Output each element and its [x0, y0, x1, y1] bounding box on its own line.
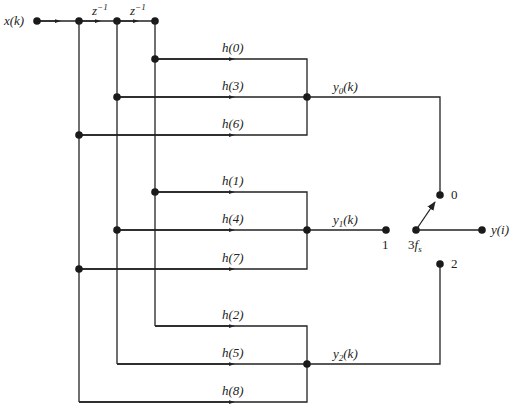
- switch-rate-label: 3fs: [408, 237, 422, 254]
- commutator-switch: 0 1 2 3fs y(i): [382, 187, 509, 271]
- coef-h1: h(1): [222, 173, 244, 188]
- coef-h2: h(2): [222, 307, 244, 322]
- branch-2: h(2) h(5) h(8) y2(k): [79, 264, 440, 402]
- delay-label-2: z−1: [129, 2, 146, 18]
- output-y1: y1(k): [331, 212, 358, 229]
- coef-h0: h(0): [222, 40, 244, 55]
- delay-label-1: z−1: [91, 2, 108, 18]
- coef-h4: h(4): [222, 211, 244, 226]
- coef-h6: h(6): [222, 116, 244, 131]
- input-node: [33, 17, 41, 25]
- branch-0: h(0) h(3) h(6) y0(k): [75, 40, 440, 195]
- switch-arm-arrow-icon: [416, 202, 435, 230]
- coef-h8: h(8): [222, 383, 244, 398]
- output-y0: y0(k): [331, 79, 358, 96]
- polyphase-filter-diagram: x(k) z−1 z−1 h(0) h(3) h(6) y0(k) h(1) h…: [0, 0, 512, 411]
- coef-h5: h(5): [222, 345, 244, 360]
- input-label: x(k): [3, 13, 24, 28]
- switch-label-2: 2: [451, 256, 458, 271]
- coef-h3: h(3): [222, 78, 244, 93]
- branch-1: h(1) h(4) h(7) y1(k): [75, 173, 386, 273]
- output-y2: y2(k): [331, 346, 358, 363]
- switch-position-0: [436, 191, 444, 199]
- switch-label-1: 1: [382, 237, 389, 252]
- sum-node-1: [303, 226, 311, 234]
- output-label: y(i): [489, 222, 509, 237]
- switch-position-2: [436, 260, 444, 268]
- coef-h7: h(7): [222, 250, 244, 265]
- switch-label-0: 0: [451, 187, 458, 202]
- delay-line: [33, 17, 159, 25]
- output-node: [478, 226, 486, 234]
- switch-position-1: [382, 226, 390, 234]
